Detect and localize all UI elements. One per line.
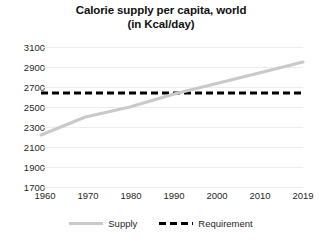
- y-axis-tick-2500: 2500: [5, 103, 45, 113]
- x-axis-tick-2010: 2010: [238, 191, 282, 201]
- legend-item-supply[interactable]: Supply: [69, 218, 137, 229]
- legend-label-supply: Supply: [108, 218, 137, 229]
- chart-series-layer: [41, 47, 303, 187]
- series-line-supply: [41, 62, 303, 135]
- legend-label-requirement: Requirement: [198, 218, 252, 229]
- chart-title-line-1: Calorie supply per capita, world: [0, 3, 322, 17]
- y-axis-tick-3100: 3100: [5, 43, 45, 53]
- y-axis-tick-2900: 2900: [5, 63, 45, 73]
- x-axis-tick-2019: 2019: [281, 191, 322, 201]
- x-axis-tick-1980: 1980: [109, 191, 153, 201]
- y-axis-tick-2300: 2300: [5, 123, 45, 133]
- plot-area: [41, 47, 303, 187]
- legend-swatch-requirement-icon: [159, 219, 193, 228]
- x-axis-tick-2000: 2000: [195, 191, 239, 201]
- chart-title-line-2: (in Kcal/day): [0, 17, 322, 31]
- gridline-1700: [41, 187, 303, 188]
- chart-title: Calorie supply per capita, world (in Kca…: [0, 3, 322, 31]
- chart-legend: Supply Requirement: [0, 218, 322, 229]
- legend-item-requirement[interactable]: Requirement: [159, 218, 252, 229]
- x-axis-tick-1960: 1960: [23, 191, 67, 201]
- y-axis-tick-2700: 2700: [5, 83, 45, 93]
- x-axis-tick-1990: 1990: [152, 191, 196, 201]
- calorie-supply-chart: Calorie supply per capita, world (in Kca…: [0, 0, 322, 244]
- y-axis-tick-1900: 1900: [5, 163, 45, 173]
- legend-swatch-supply-icon: [69, 219, 103, 228]
- x-axis-tick-1970: 1970: [66, 191, 110, 201]
- y-axis-tick-2100: 2100: [5, 143, 45, 153]
